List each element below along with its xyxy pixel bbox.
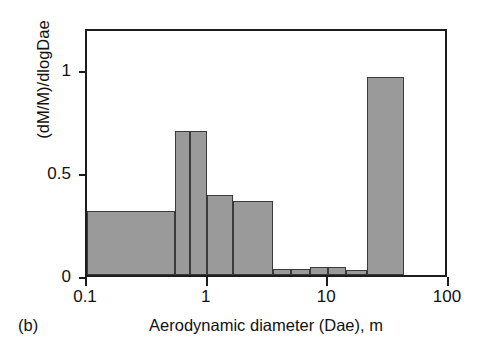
histogram-bar (346, 270, 367, 275)
x-axis-tick-label: 1 (176, 288, 236, 305)
histogram-bar (328, 267, 346, 275)
histogram-bar (273, 269, 291, 275)
x-axis-tick-label: 0.1 (55, 288, 115, 305)
histogram-bar (175, 131, 190, 275)
histogram-bar (310, 267, 329, 275)
x-axis-tick (85, 277, 87, 286)
y-axis-title: (dM/M)/dlogDae (34, 0, 53, 185)
plot-area (87, 31, 445, 275)
x-axis-tick-label: 100 (417, 288, 477, 305)
histogram-bar (87, 211, 175, 275)
histogram-bar (233, 201, 274, 275)
x-axis-title: Aerodynamic diameter (Dae), m (85, 316, 447, 335)
panel-label: (b) (18, 316, 38, 335)
histogram-bar (190, 131, 206, 275)
histogram-bar (291, 269, 310, 275)
x-axis-tick (206, 277, 208, 286)
figure-panel-b: (dM/M)/dlogDae 00.51 0.1110100 Aerodynam… (0, 0, 484, 352)
y-axis-tick-label: 1 (31, 62, 71, 79)
histogram-bar (367, 77, 403, 275)
y-axis-tick-label: 0 (31, 268, 71, 285)
histogram-bar (207, 195, 233, 275)
y-axis-tick-label: 0.5 (31, 165, 71, 182)
x-axis-tick-label: 10 (296, 288, 356, 305)
x-axis-tick (326, 277, 328, 286)
plot-frame (85, 29, 447, 277)
x-axis-tick (447, 277, 449, 286)
